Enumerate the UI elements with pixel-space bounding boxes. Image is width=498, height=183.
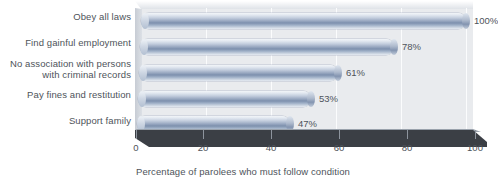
bar-value-label: 47% [298,118,317,129]
plot-area: 100% 78% 61% 53% 47% [135,8,473,138]
x-tick [271,130,272,139]
bar-value-label: 78% [402,41,421,52]
category-label: Find gainful employment [0,37,131,48]
bar-cylinder [138,91,311,107]
x-tick-label: 60 [334,142,345,153]
category-axis-labels: Obey all laws Find gainful employment No… [0,0,131,140]
bar-value-label: 53% [319,93,338,104]
bar-series: 100% 78% 61% 53% 47% [135,8,473,138]
bar-value-label: 61% [346,67,365,78]
bar-cylinder [140,39,394,55]
x-tick-label: 0 [133,142,138,153]
x-tick [339,130,340,139]
x-tick [136,130,137,139]
x-tick-label: 40 [266,142,277,153]
x-tick-label: 80 [402,142,413,153]
x-tick [203,130,204,139]
x-tick [407,130,408,139]
category-label: Obey all laws [0,11,131,22]
category-label: No association with persons with crimina… [0,58,131,80]
x-tick-label: 100 [467,142,483,153]
x-axis: 0 20 40 60 80 100 [135,138,487,164]
category-label: Support family [0,115,131,126]
x-tick-label: 20 [198,142,209,153]
bar-value-label: 100% [474,15,498,26]
x-tick [475,130,476,139]
x-axis-title: Percentage of parolees who must follow c… [0,166,486,177]
bar-cylinder [139,65,338,81]
category-label: Pay fines and restitution [0,89,131,100]
bar-cylinder [141,13,466,29]
